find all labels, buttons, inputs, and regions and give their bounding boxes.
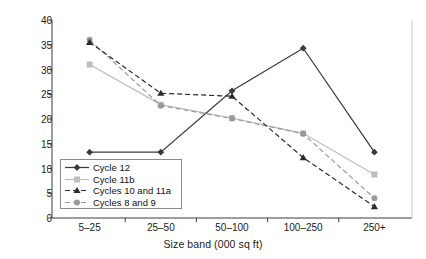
- data-point-marker: [300, 45, 307, 52]
- legend-marker-icon: [64, 185, 90, 196]
- legend-item-1[interactable]: Cycle 12: [64, 162, 178, 174]
- x-tick-label: 25–50: [121, 222, 201, 233]
- data-point-marker: [87, 62, 93, 68]
- chart-container: Share of buildings (%) 0510152025303540 …: [0, 0, 426, 259]
- legend-item-3[interactable]: Cycles 10 and 11a: [64, 185, 178, 197]
- data-point-marker: [371, 171, 377, 177]
- data-point-marker: [371, 195, 377, 201]
- x-tick-label: 100–250: [263, 222, 343, 233]
- y-tick-marks: [48, 20, 52, 218]
- legend-item-4[interactable]: Cycles 8 and 9: [64, 197, 178, 209]
- data-point-marker: [371, 149, 378, 156]
- x-axis-title: Size band (000 sq ft): [0, 238, 426, 250]
- data-point-marker: [300, 131, 306, 137]
- data-point-marker: [158, 103, 164, 109]
- data-point-marker: [371, 203, 378, 209]
- data-point-marker: [157, 90, 164, 96]
- chart-legend: Cycle 12Cycle 11bCycles 10 and 11aCycles…: [60, 159, 182, 209]
- data-point-marker: [229, 116, 235, 122]
- series-line: [90, 48, 375, 152]
- legend-marker-icon: [64, 197, 90, 208]
- series-cycle-12: [86, 45, 378, 156]
- plot-area: [0, 0, 426, 259]
- data-point-marker: [74, 176, 80, 182]
- legend-label: Cycles 8 and 9: [93, 197, 156, 208]
- x-tick-label: 250+: [334, 222, 414, 233]
- legend-item-2[interactable]: Cycle 11b: [64, 174, 178, 186]
- legend-marker-icon: [64, 174, 90, 185]
- legend-label: Cycle 11b: [93, 174, 135, 185]
- legend-label: Cycle 12: [93, 162, 130, 173]
- data-point-marker: [74, 199, 80, 205]
- legend-marker-icon: [64, 162, 90, 173]
- x-tick-label: 5–25: [50, 222, 130, 233]
- x-tick-label: 50–100: [192, 222, 272, 233]
- legend-label: Cycles 10 and 11a: [93, 185, 171, 196]
- data-point-marker: [74, 164, 81, 171]
- data-point-marker: [86, 149, 93, 156]
